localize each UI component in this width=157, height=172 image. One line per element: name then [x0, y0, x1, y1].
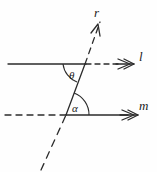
ray-r-label: r: [94, 6, 99, 19]
line-l-label: l: [139, 50, 143, 63]
geometry-canvas: [0, 0, 157, 172]
ray-r-upper-dashed-segment: [85, 22, 100, 64]
ray-r-arrowhead: [91, 24, 100, 36]
geometry-figure: r l m θ α: [0, 0, 157, 172]
ray-r-lower-dashed-segment: [41, 115, 66, 170]
angle-theta-label: θ: [69, 70, 74, 81]
angle-alpha-label: α: [72, 103, 78, 114]
line-m-label: m: [139, 99, 148, 112]
